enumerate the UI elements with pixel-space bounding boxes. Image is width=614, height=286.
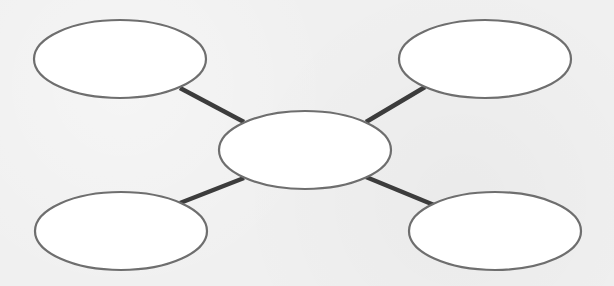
node-top-right: [399, 20, 571, 98]
nodes-group: [34, 20, 581, 270]
node-ellipse-bottom-left: [35, 192, 207, 270]
node-ellipse-top-right: [399, 20, 571, 98]
node-top-left: [34, 20, 206, 98]
spider-map-diagram: [0, 0, 614, 286]
node-ellipse-bottom-right: [409, 192, 581, 270]
connector-bottom-right: [366, 177, 434, 205]
connector-bottom-left: [180, 178, 244, 203]
node-bottom-left: [35, 192, 207, 270]
connector-top-left: [180, 88, 244, 122]
node-center: [219, 111, 391, 189]
node-bottom-right: [409, 192, 581, 270]
node-ellipse-top-left: [34, 20, 206, 98]
connector-top-right: [366, 87, 425, 122]
diagram-svg: [0, 0, 614, 286]
node-ellipse-center: [219, 111, 391, 189]
